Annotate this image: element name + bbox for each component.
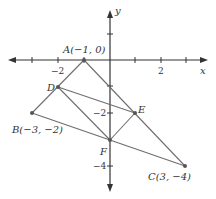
x-tick-label-neg2: −2 <box>51 66 64 76</box>
point-C <box>183 164 187 168</box>
y-axis-up-arrow-icon <box>107 10 113 18</box>
point-F <box>108 138 112 142</box>
y-tick-label-neg2: −2 <box>93 108 106 118</box>
y-axis-label: y <box>114 5 121 16</box>
point-B <box>30 111 34 115</box>
point-E <box>133 111 137 115</box>
label-C: C(3, −4) <box>148 171 191 182</box>
label-A: A(−1, 0) <box>62 44 106 55</box>
y-tick-label-neg4: −4 <box>93 161 107 171</box>
label-F: F <box>99 146 108 157</box>
label-D: D <box>46 82 55 93</box>
y-axis: y −2 −4 <box>93 5 121 192</box>
label-E: E <box>137 104 146 115</box>
x-axis-left-arrow-icon <box>8 57 16 63</box>
triangle-midpoint-diagram: −2 2 x y −2 −4 A(−1, 0) B(−3, −2) C(3, −… <box>0 0 216 199</box>
x-axis: −2 2 x <box>8 57 208 76</box>
point-D <box>56 85 60 89</box>
label-B: B(−3, −2) <box>11 124 63 135</box>
x-axis-label: x <box>200 65 206 76</box>
y-axis-down-arrow-icon <box>107 184 113 192</box>
x-axis-right-arrow-icon <box>200 57 208 63</box>
segment-EF <box>110 113 135 140</box>
x-tick-label-2: 2 <box>158 66 164 76</box>
point-A <box>82 58 86 62</box>
